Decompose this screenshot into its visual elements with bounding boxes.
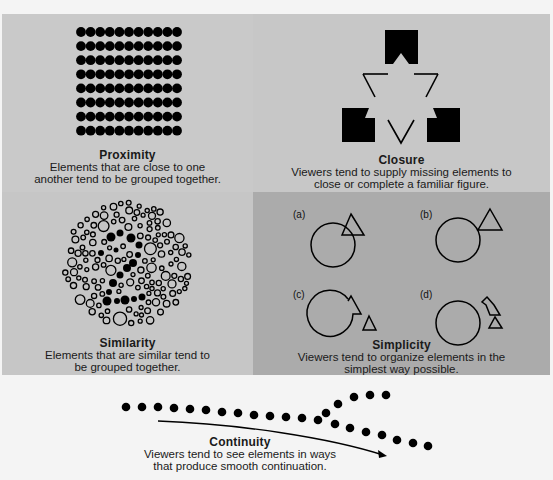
similarity-title: Similarity <box>2 337 253 349</box>
continuity-desc-2: that produce smooth continuation. <box>120 460 360 472</box>
proximity-desc-2: another tend to be grouped together. <box>2 173 253 185</box>
label-d: (d) <box>420 289 432 300</box>
closure-desc-2: close or complete a familiar figure. <box>253 178 550 190</box>
circle-a <box>311 223 355 267</box>
similarity-desc-2: be grouped together. <box>2 361 253 373</box>
closure-desc-1: Viewers tend to supply missing elements … <box>253 166 550 178</box>
proximity-desc-1: Elements that are close to one <box>2 161 253 173</box>
simplicity-figures <box>307 209 502 345</box>
label-a: (a) <box>293 209 305 220</box>
similarity-caption: Similarity Elements that are similar ten… <box>2 337 253 373</box>
proximity-caption: Proximity Elements that are close to one… <box>2 149 253 185</box>
continuity-caption: Continuity Viewers tend to see elements … <box>120 436 360 472</box>
continuity-desc-1: Viewers tend to see elements in ways <box>120 448 360 460</box>
proximity-title: Proximity <box>2 149 253 161</box>
label-c: (c) <box>293 289 305 300</box>
closure-caption: Closure Viewers tend to supply missing e… <box>253 154 550 190</box>
simplicity-desc-1: Viewers tend to organize elements in the <box>253 351 550 363</box>
simplicity-caption: Simplicity Viewers tend to organize elem… <box>253 339 550 375</box>
proximity-dot-grid <box>76 27 182 135</box>
simplicity-title: Simplicity <box>253 339 550 351</box>
closure-figure <box>342 30 460 143</box>
similarity-desc-1: Elements that are similar tend to <box>2 349 253 361</box>
gestalt-figures: (a) (b) (c) (d) <box>0 0 553 480</box>
similarity-circle-cluster <box>63 200 191 325</box>
simplicity-desc-2: simplest way possible. <box>253 363 550 375</box>
label-b: (b) <box>420 209 432 220</box>
continuity-title: Continuity <box>120 436 360 448</box>
closure-title: Closure <box>253 154 550 166</box>
